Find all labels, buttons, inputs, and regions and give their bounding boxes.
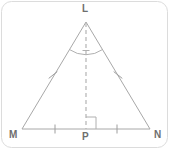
vertex-label-P: P	[82, 132, 89, 142]
figure-frame	[2, 2, 168, 148]
side-LM	[22, 22, 86, 129]
tick-mark-side-LN	[114, 72, 123, 79]
vertex-label-L: L	[82, 4, 88, 14]
vertex-label-M: M	[9, 130, 17, 140]
geometry-figure: L M N P	[0, 0, 176, 157]
right-angle-marker-at-P	[86, 117, 96, 129]
vertex-label-N: N	[154, 130, 161, 140]
